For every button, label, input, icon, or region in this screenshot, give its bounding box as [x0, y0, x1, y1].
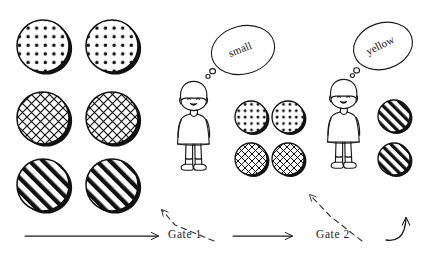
- circle-crosshatch-2: [86, 92, 141, 147]
- diagram-canvas: Gate 1 Gate 2 small yellow: [0, 0, 432, 258]
- circle-small-dots-2: [272, 101, 306, 135]
- circle-diagonal-1: [17, 159, 72, 214]
- girl-figure-gate1: [178, 81, 210, 170]
- circle-out-diagonal-1: [378, 100, 412, 134]
- input-circle-grid: [17, 20, 141, 214]
- circle-small-crosshatch-2: [272, 143, 306, 177]
- shapes-layer: [0, 0, 432, 258]
- flow-arrow-curved-out: [386, 218, 406, 240]
- after-gate2-circle-column: [378, 100, 412, 177]
- after-gate1-circle-grid: [235, 101, 306, 177]
- circle-out-diagonal-2: [378, 143, 412, 177]
- circle-small-crosshatch-1: [235, 143, 269, 177]
- circle-dots-1: [17, 20, 72, 75]
- girl-figure-gate2: [328, 79, 360, 168]
- circle-small-dots-1: [235, 101, 269, 135]
- circle-crosshatch-1: [17, 92, 72, 147]
- gate1-label: Gate 1: [168, 228, 202, 240]
- gate2-label: Gate 2: [316, 228, 350, 240]
- circle-dots-2: [86, 20, 141, 75]
- circle-diagonal-2: [86, 159, 141, 214]
